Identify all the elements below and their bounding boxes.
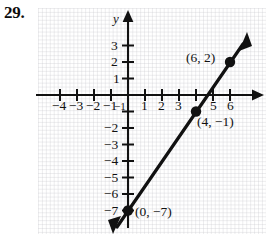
y-tick-label-3: 3	[111, 39, 118, 53]
x-tick-label-neg4: −4	[52, 99, 66, 113]
y-tick-label-neg6: −6	[104, 187, 118, 201]
x-tick-label-1: 1	[141, 99, 148, 113]
x-tick-label-5: 5	[210, 99, 217, 113]
point-annotation-0-neg7: (0, −7)	[135, 205, 172, 219]
line-arrowhead-upper	[239, 32, 252, 51]
y-axis	[123, 10, 134, 228]
x-tick-label-neg3: −3	[69, 99, 83, 113]
y-tick-label-2: 2	[111, 55, 118, 69]
y-tick-label-neg1: −1	[114, 101, 126, 112]
x-tick-label-3: 3	[175, 99, 182, 113]
x-tick-label-6: 6	[227, 99, 234, 113]
data-point-0-neg7	[123, 205, 133, 215]
data-point-6-2	[225, 57, 235, 67]
figure-container: 29.	[0, 0, 266, 234]
point-annotation-4-neg1: (4, −1)	[197, 115, 234, 129]
y-tick-label-neg7: −7	[104, 204, 118, 218]
x-tick-label-neg2: −2	[86, 99, 100, 113]
x-axis-arrowhead	[252, 90, 264, 101]
y-axis-arrowhead	[123, 10, 134, 22]
y-axis-label: y	[113, 12, 119, 25]
y-tick-label-1: 1	[113, 72, 120, 86]
point-annotation-6-2: (6, 2)	[186, 51, 215, 65]
x-tick-label-2: 2	[158, 99, 165, 113]
y-tick-label-neg2: −2	[104, 121, 118, 135]
y-tick-label-neg4: −4	[104, 154, 118, 168]
y-tick-label-neg3: −3	[104, 138, 118, 152]
y-tick-label-neg5: −5	[104, 171, 118, 185]
